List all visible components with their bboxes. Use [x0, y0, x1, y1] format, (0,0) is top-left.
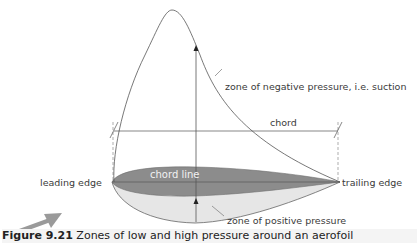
negative-pressure-curve	[114, 10, 340, 182]
arrowhead-up-top-icon	[194, 45, 199, 51]
chord-label: chord	[270, 117, 297, 128]
figure-number: Figure 9.21	[2, 229, 73, 242]
negative-zone-label: zone of negative pressure, i.e. suction	[225, 81, 406, 92]
chord-line-label: chord line	[150, 169, 199, 180]
figure-caption: Figure 9.21 Zones of low and high pressu…	[2, 229, 417, 243]
trailing-edge-label: trailing edge	[342, 177, 402, 188]
leading-edge-label: leading edge	[40, 177, 102, 188]
positive-zone-label: zone of positive pressure	[227, 215, 346, 226]
negative-zone-leader	[215, 69, 222, 76]
figure-caption-text: Zones of low and high pressure around an…	[76, 229, 353, 242]
chord-tick-left	[110, 122, 118, 138]
